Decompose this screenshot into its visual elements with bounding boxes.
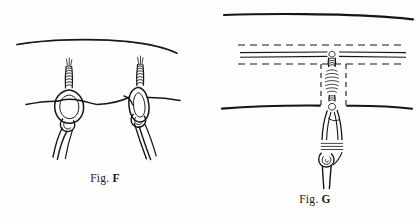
upper-solid-rope <box>224 14 413 19</box>
figure-g-caption: Fig.G <box>210 193 420 205</box>
figure-g-caption-letter: G <box>319 193 331 205</box>
seizing-waist-turns <box>329 96 335 101</box>
right-knot <box>97 56 180 160</box>
right-rope-frayed-tip <box>138 56 144 64</box>
figure-f-artwork <box>0 0 210 175</box>
left-knot-crossing-strand <box>58 100 96 105</box>
double-line-rope-left-bottom <box>240 56 328 57</box>
figure-f-caption: Fig.F <box>0 172 210 184</box>
lower-lashing-eye-outer <box>319 153 334 167</box>
figure-g: Fig.G <box>210 0 420 222</box>
left-knot <box>26 57 96 159</box>
lower-lashing-leg-left-inner <box>327 112 331 140</box>
upper-curved-rope-shade <box>17 40 177 54</box>
double-line-rope-right-bottom <box>339 56 406 57</box>
lower-lashing-right-strand <box>333 153 341 165</box>
lower-lashing-leg-right-inner <box>334 112 338 140</box>
double-line-rope <box>240 52 406 57</box>
left-knot-tail-strand-c <box>65 130 72 159</box>
bottom-tail-right <box>329 166 331 189</box>
lower-solid-rope-left <box>222 106 320 109</box>
seizing-neck-turns <box>328 58 335 66</box>
vertical-seizing <box>325 49 340 101</box>
left-knot-bight-inner <box>60 95 79 119</box>
lower-lashing-eye-inner <box>322 156 331 164</box>
illustration-plate: Fig.F <box>0 0 420 222</box>
left-rope-frayed-tip <box>66 57 72 66</box>
lower-lashing <box>319 101 344 189</box>
right-whipping-turns <box>137 64 144 84</box>
bottom-tail-left <box>322 166 323 189</box>
lower-solid-rope-right <box>347 106 412 109</box>
left-knot-tail-strand-a <box>53 128 62 157</box>
horizontal-rope-left-seg <box>26 101 58 104</box>
left-whipping-turns <box>65 66 72 87</box>
figure-f-caption-letter: F <box>110 172 120 184</box>
figure-g-caption-word: Fig. <box>299 193 318 205</box>
horizontal-rope-right-seg <box>147 98 180 101</box>
double-line-rope-left-top <box>240 52 328 53</box>
figure-f-caption-word: Fig. <box>90 172 109 184</box>
figure-g-artwork <box>210 0 420 195</box>
figure-f: Fig.F <box>0 0 210 210</box>
right-knot-crossing-strand <box>97 97 129 104</box>
right-knot-bight-inner <box>133 93 145 117</box>
lower-lashing-eye-curl <box>325 159 328 162</box>
double-line-rope-right-top <box>339 52 406 53</box>
